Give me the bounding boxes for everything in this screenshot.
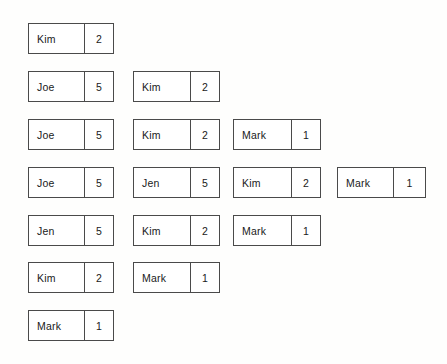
box-name-cell: Kim [29, 24, 85, 53]
name-value-box[interactable]: Kim2 [133, 215, 220, 246]
box-value-cell: 1 [292, 216, 320, 245]
box-name-cell: Mark [234, 120, 292, 149]
box-name-cell: Kim [134, 72, 191, 101]
box-name-cell: Kim [29, 263, 85, 292]
box-value-cell: 2 [292, 168, 320, 197]
name-value-box[interactable]: Mark1 [133, 262, 220, 293]
box-name-cell: Mark [338, 168, 394, 197]
box-value-cell: 1 [394, 168, 425, 197]
box-value-cell: 1 [191, 263, 219, 292]
box-name-cell: Kim [134, 120, 191, 149]
box-name-cell: Mark [234, 216, 292, 245]
box-value-cell: 2 [85, 24, 113, 53]
name-value-box[interactable]: Mark1 [233, 119, 321, 150]
name-value-box[interactable]: Kim2 [233, 167, 321, 198]
box-name-cell: Mark [29, 311, 85, 340]
box-name-cell: Joe [29, 72, 85, 101]
box-name-cell: Jen [134, 168, 191, 197]
box-value-cell: 2 [191, 216, 219, 245]
box-value-cell: 2 [191, 72, 219, 101]
diagram-canvas: Kim2Joe5Kim2Joe5Kim2Mark1Joe5Jen5Kim2Mar… [0, 0, 447, 364]
name-value-box[interactable]: Joe5 [28, 119, 114, 150]
box-value-cell: 5 [85, 168, 113, 197]
name-value-box[interactable]: Kim2 [133, 119, 220, 150]
name-value-box[interactable]: Kim2 [133, 71, 220, 102]
box-value-cell: 1 [292, 120, 320, 149]
name-value-box[interactable]: Joe5 [28, 167, 114, 198]
box-value-cell: 5 [85, 120, 113, 149]
name-value-box[interactable]: Kim2 [28, 262, 114, 293]
box-name-cell: Joe [29, 168, 85, 197]
name-value-box[interactable]: Mark1 [28, 310, 114, 341]
box-value-cell: 5 [85, 72, 113, 101]
box-name-cell: Mark [134, 263, 191, 292]
box-value-cell: 5 [191, 168, 219, 197]
box-value-cell: 2 [191, 120, 219, 149]
box-name-cell: Kim [234, 168, 292, 197]
name-value-box[interactable]: Mark1 [233, 215, 321, 246]
box-value-cell: 5 [85, 216, 113, 245]
name-value-box[interactable]: Joe5 [28, 71, 114, 102]
name-value-box[interactable]: Kim2 [28, 23, 114, 54]
box-name-cell: Joe [29, 120, 85, 149]
name-value-box[interactable]: Jen5 [28, 215, 114, 246]
box-name-cell: Kim [134, 216, 191, 245]
box-name-cell: Jen [29, 216, 85, 245]
box-value-cell: 2 [85, 263, 113, 292]
name-value-box[interactable]: Jen5 [133, 167, 220, 198]
box-value-cell: 1 [85, 311, 113, 340]
name-value-box[interactable]: Mark1 [337, 167, 426, 198]
